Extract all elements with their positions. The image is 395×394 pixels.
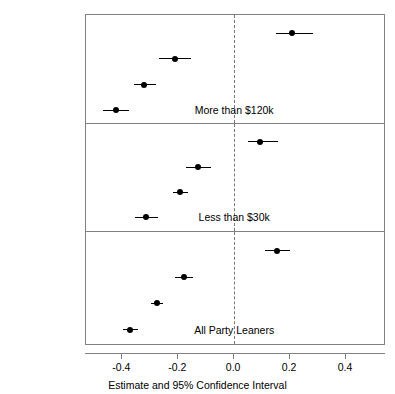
- panel-1: JustPartyJustRepBothMisalignedPtyLess th…: [85, 124, 385, 232]
- x-axis-tick: [177, 353, 178, 359]
- estimate-point: [143, 214, 149, 220]
- estimate-point: [274, 248, 280, 254]
- estimate-point: [257, 139, 263, 145]
- x-axis-line: [85, 353, 385, 354]
- x-axis-tick-label: 0.4: [338, 361, 353, 373]
- panel-label: More than $120k: [195, 104, 274, 116]
- panel-label: All Party Leaners: [194, 324, 274, 336]
- panel-0: JustPartyJustRepBothMisalignedPtyMore th…: [85, 14, 385, 124]
- x-axis-tick: [233, 353, 234, 359]
- estimate-point: [113, 107, 119, 113]
- x-axis-title: Estimate and 95% Confidence Interval: [0, 379, 395, 391]
- estimate-point: [289, 30, 295, 36]
- x-axis-tick-label: -0.4: [112, 361, 130, 373]
- x-axis-tick-label: -0.2: [168, 361, 186, 373]
- estimate-point: [177, 189, 183, 195]
- estimate-point: [181, 274, 187, 280]
- estimate-point: [127, 327, 133, 333]
- x-axis-tick: [345, 353, 346, 359]
- panel-2: JustPartyJustRepBothMisalignedPtyAll Par…: [85, 232, 385, 345]
- forest-plot: JustPartyJustRepBothMisalignedPtyMore th…: [0, 0, 395, 394]
- estimate-point: [154, 300, 160, 306]
- panel-label: Less than $30k: [199, 211, 270, 223]
- panel-stack: JustPartyJustRepBothMisalignedPtyMore th…: [85, 14, 385, 345]
- estimate-point: [141, 82, 147, 88]
- estimate-point: [172, 56, 178, 62]
- x-axis-tick-label: 0.0: [226, 361, 241, 373]
- x-axis-tick: [121, 353, 122, 359]
- x-axis-tick-label: 0.2: [282, 361, 297, 373]
- estimate-point: [195, 164, 201, 170]
- confidence-interval-bar: [248, 141, 278, 142]
- x-axis-tick: [289, 353, 290, 359]
